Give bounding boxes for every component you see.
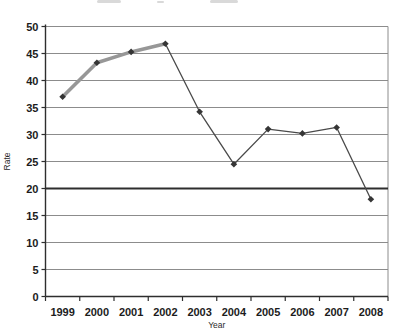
- x-tick-label: 2007: [324, 306, 348, 318]
- x-tick-label: 2004: [222, 306, 247, 318]
- y-tick-label: 45: [26, 48, 38, 60]
- data-point-marker: [299, 130, 306, 137]
- y-tick-label: 40: [26, 75, 38, 87]
- y-tick-label: 5: [32, 264, 38, 276]
- y-tick-label: 10: [26, 237, 38, 249]
- rate-by-year-line-chart: 0510152025303540455019992000200120022003…: [0, 0, 395, 334]
- x-axis-ticks: 1999200020012002200320042005200620072008: [46, 297, 389, 318]
- y-tick-label: 15: [26, 210, 38, 222]
- x-tick-label: 2005: [256, 306, 280, 318]
- x-tick-label: 1999: [50, 306, 74, 318]
- y-tick-label: 50: [26, 21, 38, 33]
- x-tick-label: 2002: [153, 306, 177, 318]
- series-line-rate-thin-line: [63, 44, 371, 200]
- y-axis-ticks: 05101520253035404550: [26, 21, 45, 303]
- data-point-marker: [368, 196, 375, 203]
- y-tick-label: 30: [26, 129, 38, 141]
- y-tick-label: 35: [26, 102, 38, 114]
- series-line-rate-thick-overlay-1999-2002: [63, 44, 166, 97]
- x-tick-label: 2008: [359, 306, 383, 318]
- x-tick-label: 2000: [85, 306, 109, 318]
- x-axis-title: Year: [208, 320, 225, 330]
- data-point-marker: [196, 109, 203, 116]
- y-tick-label: 25: [26, 156, 38, 168]
- data-point-markers: [59, 40, 374, 202]
- y-tick-label: 0: [32, 291, 38, 303]
- chart-page: 0510152025303540455019992000200120022003…: [0, 0, 395, 334]
- y-tick-label: 20: [26, 183, 38, 195]
- data-point-marker: [333, 124, 340, 131]
- x-tick-label: 2006: [290, 306, 314, 318]
- x-tick-label: 2003: [187, 306, 211, 318]
- y-axis-title: Rate: [2, 152, 12, 170]
- x-tick-label: 2001: [119, 306, 143, 318]
